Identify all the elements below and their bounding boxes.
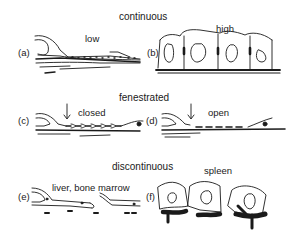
panel-label-spleen: spleen [204,166,232,176]
section-title-discontinuous: discontinuous [112,162,173,172]
section-title-continuous: continuous [119,12,167,22]
panel-tag-b: (b) [147,48,159,58]
panel-tag-a: (a) [18,48,30,58]
panel-tag-c: (c) [18,116,29,126]
panel-label-closed: closed [78,108,105,118]
panel-label-liver-bone-marrow: liver, bone marrow [52,183,130,193]
panel-b-sketch [156,30,280,73]
panel-label-low: low [85,34,99,44]
panel-label-high: high [216,24,234,34]
panel-tag-f: (f) [146,192,155,202]
panel-f-sketch [158,182,266,229]
panel-tag-d: (d) [146,116,158,126]
panel-label-open: open [208,108,229,118]
panel-tag-e: (e) [18,192,30,202]
section-title-fenestrated: fenestrated [119,93,169,103]
